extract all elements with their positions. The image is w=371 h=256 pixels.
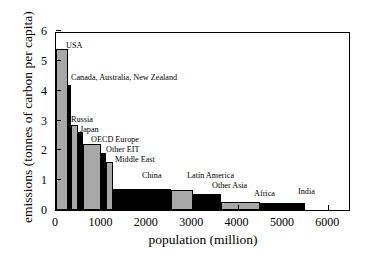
x-tick — [283, 205, 284, 210]
plot-area: USACanada, Australia, New ZealandRussiaJ… — [55, 32, 350, 211]
y-tick-label: 4 — [29, 86, 47, 96]
x-tick-label: 3000 — [171, 215, 211, 230]
bar-label-africa: Africa — [254, 189, 275, 198]
bar-label-latin-america: Latin America — [187, 171, 234, 180]
y-tick — [56, 179, 61, 180]
bar-africa — [221, 202, 260, 210]
bar-label-other-eit: Other EIT — [106, 145, 139, 154]
bar-label-canada-australia-new-zealand: Canada, Australia, New Zealand — [71, 73, 177, 82]
bar-series — [56, 33, 349, 210]
bar-label-middle-east: Middle East — [115, 155, 155, 164]
y-tick-label: 2 — [29, 145, 47, 155]
bar-label-oecd-europe: OECD Europe — [91, 135, 139, 144]
bar-label-india: India — [298, 187, 315, 196]
x-tick-label: 6000 — [307, 215, 347, 230]
bar-china — [113, 189, 171, 210]
bar-other-asia — [193, 194, 221, 210]
bar-middle-east — [106, 162, 113, 210]
y-tick-label: 0 — [29, 205, 47, 215]
x-tick — [238, 205, 239, 210]
x-tick — [192, 205, 193, 210]
bar-oecd-europe — [83, 144, 101, 210]
y-tick — [56, 30, 61, 31]
x-tick-label: 5000 — [262, 215, 302, 230]
y-tick — [56, 149, 61, 150]
y-tick — [56, 90, 61, 91]
y-tick-label: 1 — [29, 175, 47, 185]
x-tick — [101, 205, 102, 210]
emissions-vs-population-chart: emissions (tonnes of carbon per capita) … — [0, 0, 371, 256]
x-tick-label: 0 — [35, 215, 75, 230]
bar-label-japan: Japan — [80, 125, 99, 134]
y-tick — [56, 60, 61, 61]
y-tick-label: 6 — [29, 26, 47, 36]
y-tick-label: 5 — [29, 56, 47, 66]
x-tick-label: 2000 — [126, 215, 166, 230]
bar-label-other-asia: Other Asia — [212, 181, 247, 190]
y-tick — [56, 120, 61, 121]
bar-label-russia: Russia — [71, 115, 93, 124]
x-tick-label: 4000 — [217, 215, 257, 230]
bar-usa — [56, 49, 68, 210]
x-tick — [147, 205, 148, 210]
x-tick-label: 1000 — [80, 215, 120, 230]
x-axis-title: population (million) — [55, 232, 351, 248]
y-tick-label: 3 — [29, 116, 47, 126]
x-tick — [56, 205, 57, 210]
bar-latin-america — [171, 190, 194, 210]
bar-russia — [71, 125, 78, 210]
x-tick — [328, 205, 329, 210]
bar-label-usa: USA — [66, 41, 82, 50]
bar-label-china: China — [142, 171, 162, 180]
